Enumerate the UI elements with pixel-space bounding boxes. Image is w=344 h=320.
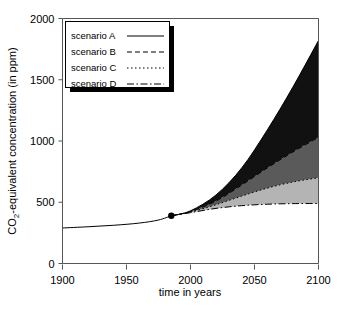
x-axis-title: time in years bbox=[159, 286, 222, 298]
y-tick-label: 500 bbox=[36, 196, 54, 208]
y-axis-ticks: 0500100015002000 bbox=[30, 13, 62, 270]
legend-label-scenario-a: scenario A bbox=[71, 30, 116, 41]
legend-label-scenario-d: scenario D bbox=[71, 78, 117, 89]
chart-figure: 0500100015002000 19001950200020502100 ti… bbox=[0, 0, 344, 320]
historical-curve bbox=[63, 216, 172, 228]
x-tick-label: 1900 bbox=[50, 274, 74, 286]
y-tick-label: 1000 bbox=[30, 135, 54, 147]
chart-svg: 0500100015002000 19001950200020502100 ti… bbox=[0, 0, 344, 320]
x-axis-ticks: 19001950200020502100 bbox=[50, 265, 330, 286]
legend-label-scenario-b: scenario B bbox=[71, 46, 116, 57]
branch-point-marker bbox=[168, 213, 174, 219]
x-tick-label: 1950 bbox=[114, 274, 138, 286]
y-tick-label: 0 bbox=[48, 258, 54, 270]
band-group bbox=[171, 41, 318, 216]
y-tick-label: 2000 bbox=[30, 13, 54, 25]
x-tick-label: 2050 bbox=[242, 274, 266, 286]
legend: scenario Ascenario Bscenario Cscenario D bbox=[66, 22, 175, 93]
y-axis-title: CO2-equivalent concentration (in ppm) bbox=[6, 47, 21, 234]
legend-label-scenario-c: scenario C bbox=[71, 62, 117, 73]
x-tick-label: 2000 bbox=[178, 274, 202, 286]
y-tick-label: 1500 bbox=[30, 74, 54, 86]
x-tick-label: 2100 bbox=[306, 274, 330, 286]
